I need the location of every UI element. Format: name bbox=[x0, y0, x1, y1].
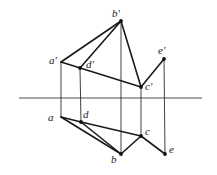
label-a: a bbox=[48, 111, 54, 123]
point-d bbox=[79, 120, 83, 124]
point-e_prime bbox=[162, 57, 166, 61]
projection-diagram: b'a'd'c'e'adcbe bbox=[0, 0, 217, 175]
edge-a_prime-c_prime bbox=[61, 62, 141, 87]
label-b_prime: b' bbox=[112, 7, 121, 19]
point-b bbox=[119, 152, 123, 156]
projector-e bbox=[164, 59, 165, 154]
edge-c-e bbox=[141, 136, 165, 154]
label-d: d bbox=[83, 108, 89, 120]
label-c: c bbox=[145, 125, 150, 137]
vertex-labels: b'a'd'c'e'adcbe bbox=[48, 7, 174, 165]
edge-a-b bbox=[61, 117, 121, 154]
point-c_prime bbox=[139, 85, 143, 89]
label-a_prime: a' bbox=[49, 54, 58, 66]
label-b: b bbox=[111, 153, 117, 165]
edge-b-c bbox=[121, 136, 141, 154]
point-b_prime bbox=[119, 19, 123, 23]
label-e: e bbox=[169, 143, 174, 155]
label-c_prime: c' bbox=[145, 80, 153, 92]
label-e_prime: e' bbox=[158, 44, 166, 56]
label-d_prime: d' bbox=[86, 58, 95, 70]
edge-b_prime-c_prime bbox=[121, 21, 141, 87]
projector-d bbox=[80, 68, 81, 122]
point-e bbox=[163, 152, 167, 156]
point-c bbox=[139, 134, 143, 138]
point-d_prime bbox=[78, 66, 82, 70]
